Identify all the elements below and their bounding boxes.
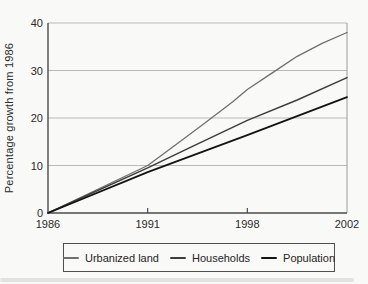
legend-item-households: Households [170, 252, 250, 264]
series-line-urbanized-land [48, 33, 347, 214]
legend-item-urbanized-land: Urbanized land [63, 252, 159, 264]
legend-line-swatch [63, 257, 79, 259]
legend: Urbanized land Households Population [63, 243, 335, 272]
legend-label: Households [192, 252, 250, 264]
plot-area: 0102030401986199119982002 [0, 0, 368, 284]
y-tick-label: 30 [31, 65, 43, 77]
legend-item-population: Population [261, 252, 335, 264]
legend-label: Urbanized land [85, 252, 159, 264]
legend-line-swatch [170, 257, 186, 259]
x-tick-label: 1991 [135, 218, 159, 230]
y-tick-label: 40 [31, 17, 43, 29]
growth-line-chart: Percentage growth from 1986 010203040198… [0, 0, 368, 284]
series-line-population [48, 97, 347, 213]
scan-artifact-band [0, 278, 354, 282]
y-tick-label: 20 [31, 112, 43, 124]
x-tick-label: 2002 [335, 218, 359, 230]
legend-label: Population [283, 252, 335, 264]
legend-line-swatch [261, 257, 277, 259]
x-tick-label: 1986 [36, 218, 60, 230]
x-tick-label: 1998 [235, 218, 259, 230]
series-line-households [48, 78, 347, 213]
y-tick-label: 10 [31, 160, 43, 172]
